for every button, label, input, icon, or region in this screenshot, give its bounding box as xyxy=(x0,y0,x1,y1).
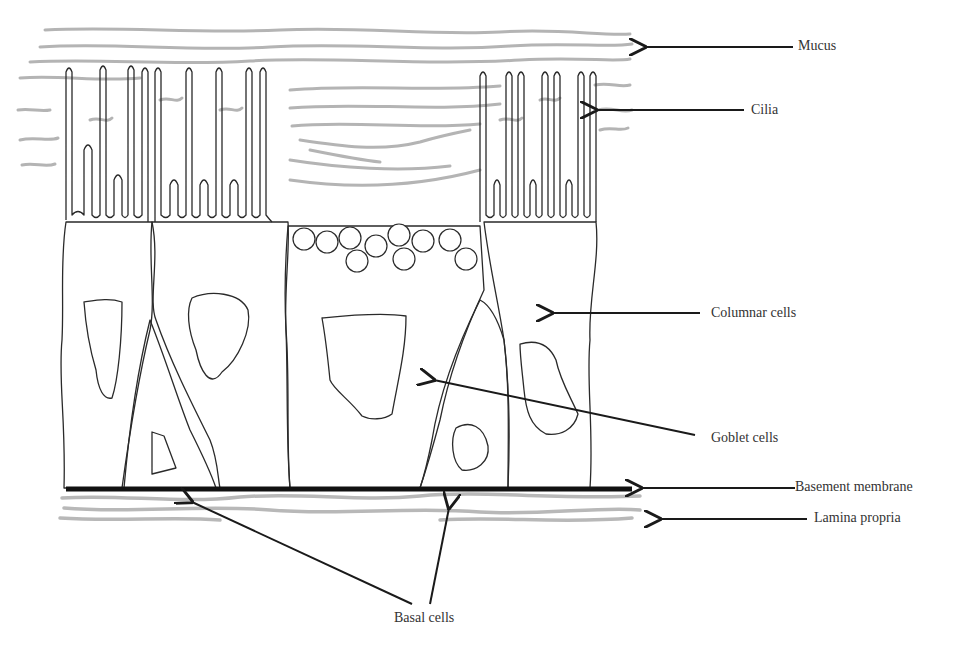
label-lamina-propria: Lamina propria xyxy=(814,510,901,526)
label-goblet-cells: Goblet cells xyxy=(711,430,778,446)
label-cilia: Cilia xyxy=(751,102,778,118)
mucus-layer xyxy=(18,29,632,186)
columnar-cell-1 xyxy=(61,222,152,488)
goblet-arrow xyxy=(434,380,695,435)
mucus-vesicles xyxy=(293,224,477,272)
basal-cell-2 xyxy=(420,300,508,488)
cilia-group-right xyxy=(480,72,596,222)
columnar-cell-2 xyxy=(152,222,290,488)
basal-arrow-right xyxy=(430,508,449,604)
lamina-propria-layer xyxy=(60,494,640,520)
label-columnar-cells: Columnar cells xyxy=(711,305,796,321)
label-basal-cells: Basal cells xyxy=(394,610,454,626)
basal-arrow-left xyxy=(192,502,412,604)
columnar-cell-3 xyxy=(484,222,597,488)
label-mucus: Mucus xyxy=(798,38,836,54)
epithelium-diagram xyxy=(0,0,970,645)
label-basement-membrane: Basement membrane xyxy=(795,479,913,495)
epithelial-cells xyxy=(61,222,597,488)
cilia-group-left xyxy=(66,66,272,222)
basal-cell-1 xyxy=(124,320,216,488)
